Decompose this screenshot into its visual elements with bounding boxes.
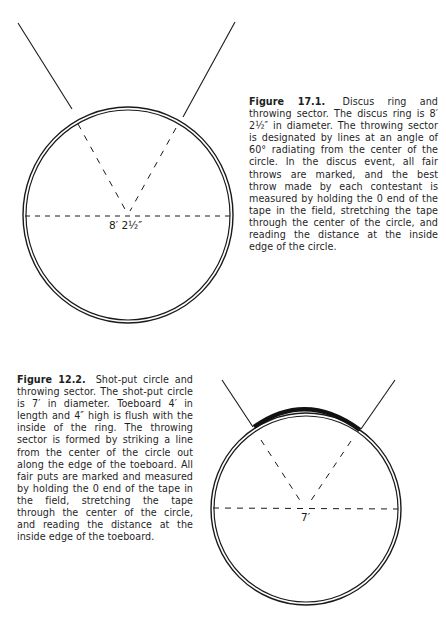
figure-17-1-caption: Figure 17.1. Discus ring and throwing se…	[249, 96, 438, 253]
figure-12-2-caption-text: Shot-put circle and throwing sector. The…	[17, 374, 193, 542]
discus-ring	[23, 107, 233, 323]
discus-sector-dashed-lines	[78, 124, 176, 211]
figure-12-2-label: Figure 12.2.	[17, 374, 86, 385]
figure-17-1-label: Figure 17.1.	[249, 96, 325, 107]
shot-put-diameter-line	[213, 508, 398, 509]
figure-17-1-caption-text: Discus ring and throwing sector. The dis…	[249, 96, 438, 252]
shot-put-sector-dashed-lines	[261, 440, 351, 502]
discus-diameter-label: 8′ 2½″	[109, 219, 142, 231]
shot-put-sector-lines	[222, 380, 395, 429]
figure-12-2-caption: Figure 12.2. Shot-put circle and throwin…	[17, 374, 193, 543]
shot-put-diameter-label: 7′	[301, 511, 310, 523]
discus-sector-lines	[18, 22, 235, 117]
